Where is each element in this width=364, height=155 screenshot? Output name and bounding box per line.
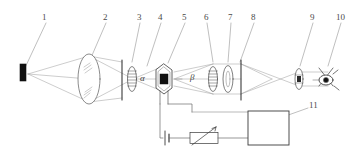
callout-label-5: 5 <box>182 13 187 22</box>
callout-label-2: 2 <box>103 13 108 22</box>
callout-label-11: 11 <box>309 101 318 110</box>
callout-label-7: 7 <box>228 13 233 22</box>
callout-leader-lines <box>23 23 341 128</box>
optical-schematic-svg <box>0 0 364 155</box>
electro-optic-crystal <box>156 64 172 104</box>
eyepiece-lens <box>295 69 303 90</box>
angle-label-alpha: α <box>140 74 145 83</box>
eye-detector <box>313 68 339 90</box>
objective-lens <box>223 66 233 93</box>
callout-label-1: 1 <box>42 13 47 22</box>
figure-canvas: 1 2 3 4 5 6 7 8 9 10 11 α β <box>0 0 364 155</box>
callout-label-4: 4 <box>158 13 163 22</box>
analyzer <box>209 67 218 92</box>
ray-bundle-slit-to-eyepiece <box>241 64 299 94</box>
light-source <box>20 64 26 81</box>
callout-label-10: 10 <box>336 13 345 22</box>
callout-label-9: 9 <box>310 13 315 22</box>
callout-label-8: 8 <box>251 13 256 22</box>
drive-circuit <box>160 104 248 145</box>
power-supply-unit <box>248 111 289 145</box>
polarizer <box>128 67 137 92</box>
callout-label-6: 6 <box>204 13 209 22</box>
condenser-lens <box>78 54 100 104</box>
callout-label-3: 3 <box>137 13 142 22</box>
angle-label-beta: β <box>190 73 194 82</box>
